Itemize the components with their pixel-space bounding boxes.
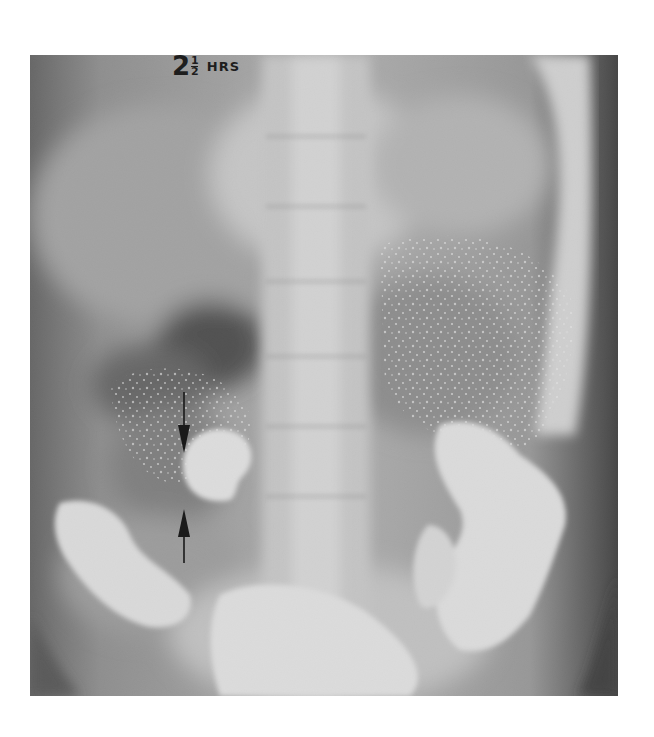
time-label-unit: HRS — [207, 59, 240, 74]
time-label-fraction: 1 2 — [191, 56, 199, 77]
time-label: 2 1 2 HRS — [172, 55, 240, 79]
radiograph-rendering — [30, 55, 618, 696]
radiograph-image: 2 1 2 HRS — [30, 55, 618, 696]
time-label-whole: 2 — [172, 55, 190, 79]
time-label-denominator: 2 — [191, 67, 199, 77]
time-label-numerator: 1 — [191, 56, 199, 66]
